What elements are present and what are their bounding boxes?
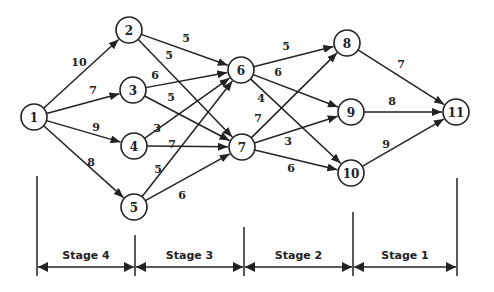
edge-10-to-11: [362, 119, 444, 166]
edge-weight-8-11: 7: [397, 58, 405, 71]
node-5: 5: [121, 194, 147, 220]
edge-weight-5-7: 6: [178, 189, 186, 202]
edge-weight-7-9: 3: [284, 135, 292, 148]
edge-weight-7-10: 6: [287, 162, 295, 175]
stage-axis: Stage 4Stage 3Stage 2Stage 1: [37, 176, 457, 276]
edge-weight-1-4: 9: [92, 121, 100, 134]
node-label: 5: [130, 201, 138, 215]
edge-1-to-2: [44, 39, 119, 108]
edge-6-to-9: [253, 75, 338, 107]
edge-weight-10-11: 9: [382, 138, 390, 151]
node-label: 2: [125, 24, 133, 38]
node-1: 1: [21, 104, 47, 130]
node-10: 10: [338, 160, 364, 186]
node-label: 7: [238, 141, 246, 155]
nodes-layer: 1234567891011: [21, 17, 469, 220]
node-3: 3: [120, 77, 146, 103]
edge-weight-3-6: 6: [151, 69, 159, 82]
edge-weight-1-3: 7: [89, 84, 97, 97]
edge-4-to-7: [147, 146, 228, 147]
edge-5-to-6: [142, 81, 232, 197]
node-label: 11: [448, 106, 465, 120]
edge-weight-2-7: 5: [165, 49, 173, 62]
node-2: 2: [116, 17, 142, 43]
edge-weight-3-7: 5: [167, 91, 175, 104]
edge-weight-5-6: 5: [154, 163, 162, 176]
node-9: 9: [338, 99, 364, 125]
edge-2-to-7: [138, 39, 232, 137]
stage-label-1: Stage 1: [381, 249, 428, 262]
edge-7-to-10: [255, 150, 338, 170]
node-label: 6: [237, 64, 245, 78]
stage-label-2: Stage 2: [275, 249, 322, 262]
node-8: 8: [334, 30, 360, 56]
edge-6-to-8: [254, 46, 334, 66]
edge-7-to-9: [254, 116, 337, 143]
node-label: 4: [130, 140, 138, 154]
node-6: 6: [228, 57, 254, 83]
node-label: 8: [343, 37, 351, 51]
edge-weight-4-6: 3: [153, 122, 161, 135]
multistage-graph-diagram: 1079855653756564736789 1234567891011 Sta…: [0, 0, 494, 292]
node-label: 9: [347, 106, 355, 120]
node-label: 10: [343, 167, 360, 181]
edge-1-to-3: [47, 94, 120, 114]
edge-1-to-5: [44, 126, 124, 198]
edge-weight-2-6: 5: [182, 32, 190, 45]
edge-weight-1-5: 8: [87, 156, 95, 169]
edge-weight-6-8: 5: [282, 40, 290, 53]
edge-weight-1-2: 10: [71, 56, 87, 69]
node-label: 1: [30, 111, 38, 125]
edge-weight-9-11: 8: [388, 95, 396, 108]
edge-weight-4-7: 7: [168, 138, 176, 151]
edge-weight-6-10: 4: [257, 92, 265, 105]
stage-label-3: Stage 3: [166, 249, 213, 262]
node-11: 11: [443, 99, 469, 125]
edge-weight-7-8: 7: [254, 112, 262, 125]
stage-label-4: Stage 4: [62, 249, 110, 262]
node-label: 3: [129, 84, 137, 98]
node-7: 7: [229, 134, 255, 160]
edge-weight-6-9: 6: [274, 66, 282, 79]
node-4: 4: [121, 133, 147, 159]
